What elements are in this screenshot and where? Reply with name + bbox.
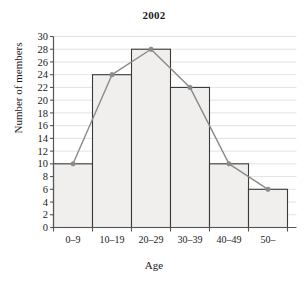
chart-container: 2002 Number of members Age 0246810121416… bbox=[0, 0, 308, 285]
data-point-marker bbox=[227, 162, 231, 166]
y-axis-tick-label: 2 bbox=[43, 209, 48, 220]
y-axis-tick-label: 8 bbox=[43, 171, 48, 182]
histogram-bar bbox=[93, 75, 132, 228]
data-point-marker bbox=[110, 73, 114, 77]
y-axis-tick-label: 4 bbox=[43, 197, 49, 208]
y-axis-tick-label: 20 bbox=[38, 95, 49, 106]
y-axis-tick-label: 6 bbox=[43, 184, 48, 195]
data-point-marker bbox=[71, 162, 75, 166]
x-axis-tick-label: 40–49 bbox=[217, 234, 242, 245]
y-axis-tick-label: 18 bbox=[38, 108, 49, 119]
y-axis-tick-label: 28 bbox=[38, 44, 49, 55]
histogram-bar bbox=[132, 49, 171, 227]
y-axis-tick-label: 22 bbox=[38, 82, 49, 93]
x-axis-tick-label: 30–39 bbox=[178, 234, 203, 245]
histogram-bar bbox=[171, 87, 210, 227]
data-point-marker bbox=[188, 85, 192, 89]
x-axis-tick-label: 20–29 bbox=[139, 234, 164, 245]
y-axis-tick-label: 12 bbox=[38, 146, 49, 157]
data-point-marker bbox=[266, 187, 270, 191]
y-axis-tick-label: 24 bbox=[38, 69, 49, 80]
x-axis-tick-label: 10–19 bbox=[100, 234, 125, 245]
x-axis-tick-label: 50– bbox=[261, 234, 277, 245]
y-axis-tick-label: 30 bbox=[38, 31, 49, 42]
x-axis-tick-label: 0–9 bbox=[66, 234, 81, 245]
histogram-bar bbox=[249, 189, 288, 227]
y-axis-tick-label: 14 bbox=[38, 133, 49, 144]
y-axis-tick-label: 26 bbox=[38, 57, 49, 68]
data-point-marker bbox=[149, 47, 153, 51]
y-axis-tick-label: 0 bbox=[43, 222, 48, 233]
y-axis-tick-label: 16 bbox=[38, 120, 49, 131]
histogram-bar bbox=[54, 164, 93, 228]
y-axis-tick-label: 10 bbox=[38, 158, 49, 169]
chart-plot-area: 0246810121416182022242628300–910–1920–29… bbox=[0, 0, 308, 285]
